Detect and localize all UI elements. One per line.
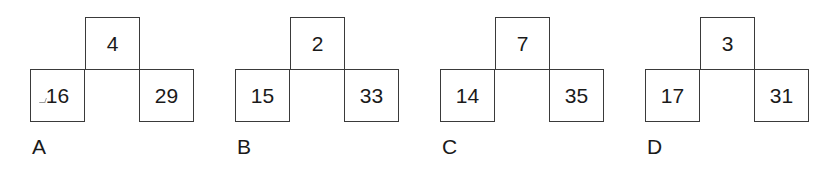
top-box: 3 xyxy=(700,17,755,70)
left-number: 17 xyxy=(661,84,684,108)
option-label: C xyxy=(442,136,457,157)
right-number: 33 xyxy=(360,84,383,108)
left-box: 16 xyxy=(30,69,85,122)
option-d: 3 17 31 D xyxy=(645,0,834,171)
left-box: 17 xyxy=(645,69,700,122)
option-a: 4 16 29 A xyxy=(30,0,230,171)
option-label: A xyxy=(32,136,46,157)
top-number: 7 xyxy=(517,32,529,56)
left-number: 16 xyxy=(46,84,69,108)
right-box: 29 xyxy=(139,69,194,122)
top-number: 4 xyxy=(107,32,119,56)
top-box: 7 xyxy=(495,17,550,70)
option-label: B xyxy=(237,136,251,157)
top-number: 3 xyxy=(722,32,734,56)
top-number: 2 xyxy=(312,32,324,56)
right-box: 33 xyxy=(344,69,399,122)
right-box: 31 xyxy=(754,69,809,122)
right-number: 35 xyxy=(565,84,588,108)
left-number: 15 xyxy=(251,84,274,108)
right-box: 35 xyxy=(549,69,604,122)
right-number: 29 xyxy=(155,84,178,108)
left-box: 14 xyxy=(440,69,495,122)
left-number: 14 xyxy=(456,84,479,108)
top-box: 4 xyxy=(85,17,140,70)
right-number: 31 xyxy=(770,84,793,108)
option-label: D xyxy=(647,136,662,157)
left-box: 15 xyxy=(235,69,290,122)
puzzle-diagram: { "options": [ { "label": "A", "top": "4… xyxy=(0,0,834,171)
top-box: 2 xyxy=(290,17,345,70)
option-b: 2 15 33 B xyxy=(235,0,435,171)
option-c: 7 14 35 C xyxy=(440,0,640,171)
